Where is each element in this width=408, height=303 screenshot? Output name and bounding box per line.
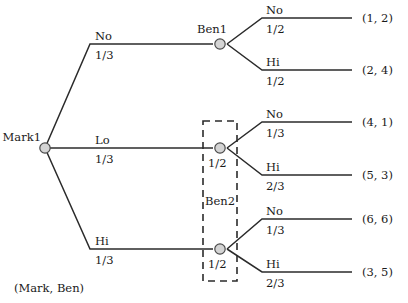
edge-ben1-no xyxy=(227,18,352,44)
node-mark1[interactable] xyxy=(40,143,50,153)
prob-label-ben1-no: 1/2 xyxy=(266,22,285,36)
payoff-5: (6, 6) xyxy=(362,212,393,226)
prob-label-mark-lo: 1/3 xyxy=(95,152,114,166)
node-ben2-top[interactable] xyxy=(215,143,225,153)
prob-label-mark-no: 1/3 xyxy=(95,48,114,62)
prob-label-ben1-hi: 1/2 xyxy=(266,74,285,88)
edge-ben2-top-hi xyxy=(227,148,352,175)
action-label-mark-hi: Hi xyxy=(95,234,109,248)
action-label-mark-no: No xyxy=(95,29,112,43)
node-label-ben1: Ben1 xyxy=(197,22,227,36)
edge-mark-hi xyxy=(45,148,213,249)
action-label-ben2-top-no: No xyxy=(266,107,283,121)
action-label-mark-lo: Lo xyxy=(95,133,110,147)
edge-mark-no xyxy=(45,44,213,148)
node-ben1[interactable] xyxy=(215,39,225,49)
node-label-ben2: Ben2 xyxy=(205,194,235,208)
payoff-3: (4, 1) xyxy=(362,115,393,129)
payoff-order-legend: (Mark, Ben) xyxy=(14,281,84,295)
action-label-ben2-bottom-no: No xyxy=(266,204,283,218)
action-label-ben2-top-hi: Hi xyxy=(266,160,280,174)
payoff-4: (5, 3) xyxy=(362,168,393,182)
payoff-2: (2, 4) xyxy=(362,63,393,77)
payoff-6: (3, 5) xyxy=(362,265,393,279)
prob-label-ben2-top-hi: 2/3 xyxy=(266,179,285,193)
belief-prob-ben2-top: 1/2 xyxy=(208,156,227,170)
prob-label-ben2-top-no: 1/3 xyxy=(266,126,285,140)
edge-ben2-bottom-hi xyxy=(227,249,352,272)
prob-label-mark-hi: 1/3 xyxy=(95,253,114,267)
edge-ben2-bottom-no xyxy=(227,219,352,249)
game-tree-diagram: Mark1 Ben1 Ben2 No 1/3 Lo 1/3 Hi 1/3 No … xyxy=(0,0,408,303)
belief-prob-ben2-bottom: 1/2 xyxy=(208,257,227,271)
node-ben2-bottom[interactable] xyxy=(215,244,225,254)
action-label-ben2-bottom-hi: Hi xyxy=(266,257,280,271)
prob-label-ben2-bottom-hi: 2/3 xyxy=(266,276,285,290)
edge-ben1-hi xyxy=(227,44,352,70)
action-label-ben1-hi: Hi xyxy=(266,55,280,69)
payoff-1: (1, 2) xyxy=(362,11,393,25)
node-label-mark1: Mark1 xyxy=(3,130,41,144)
prob-label-ben2-bottom-no: 1/3 xyxy=(266,223,285,237)
edge-ben2-top-no xyxy=(227,122,352,148)
action-label-ben1-no: No xyxy=(266,3,283,17)
